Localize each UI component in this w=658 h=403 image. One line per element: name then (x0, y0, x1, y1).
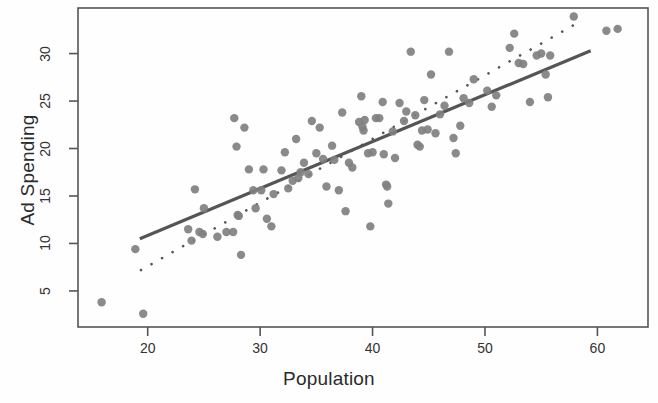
x-tick-label: 60 (577, 340, 617, 356)
y-tick-label: 15 (37, 176, 53, 216)
x-axis-title: Population (0, 368, 658, 390)
x-tick-label: 30 (240, 340, 280, 356)
data-points (97, 12, 621, 318)
axis-ticks (69, 54, 597, 336)
y-tick-label: 30 (37, 34, 53, 74)
y-tick-label: 20 (37, 129, 53, 169)
plot-canvas (0, 0, 658, 403)
x-tick-label: 40 (353, 340, 393, 356)
plot-frame (78, 8, 648, 327)
y-axis-title: Ad Spending (17, 70, 39, 270)
x-tick-label: 20 (128, 340, 168, 356)
y-tick-label: 10 (37, 223, 53, 263)
x-tick-label: 50 (465, 340, 505, 356)
y-tick-label: 25 (37, 81, 53, 121)
y-tick-label: 5 (37, 271, 53, 311)
scatter-plot-figure: 2030405060 51015202530 Population Ad Spe… (0, 0, 658, 403)
